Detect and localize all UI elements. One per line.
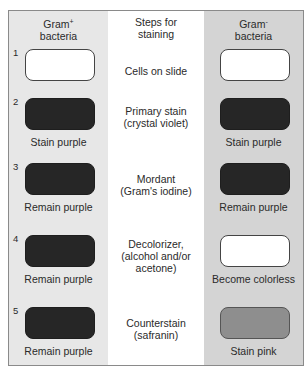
header-sup: +: [70, 18, 74, 25]
step-text: (safranin): [134, 329, 178, 341]
slide-cell-white: [25, 49, 95, 81]
gram-stain-diagram: Gram+ bacteria 1 2 Stain purple 3 Remain…: [8, 10, 304, 366]
header-text: bacteria: [40, 30, 77, 42]
slide-cell-purple: [220, 163, 290, 195]
result-label: Become colorless: [204, 273, 303, 285]
header-text: staining: [138, 28, 174, 40]
slide-cell-purple: [25, 307, 95, 339]
step-3-description: Mordant (Gram's iodine): [108, 173, 204, 197]
slide-cell-pink: [220, 307, 290, 339]
step-1-description: Cells on slide: [108, 65, 204, 77]
step-5-description: Counterstain (safranin): [108, 317, 204, 341]
result-label: Remain purple: [9, 345, 108, 357]
steps-header: Steps for staining: [108, 16, 204, 40]
gram-negative-header: Gram- bacteria: [204, 16, 303, 42]
slide-cell-white: [220, 49, 290, 81]
gram-positive-header: Gram+ bacteria: [9, 16, 108, 42]
gram-positive-column: Gram+ bacteria 1 2 Stain purple 3 Remain…: [9, 11, 108, 365]
step-text: (crystal violet): [124, 117, 189, 129]
slide-cell-purple: [25, 163, 95, 195]
header-text: Gram: [43, 18, 69, 30]
header-text: Steps for: [135, 16, 177, 28]
header-text: bacteria: [235, 30, 272, 42]
result-label: Remain purple: [9, 201, 108, 213]
step-4-description: Decolorizer, (alcohol and/or acetone): [108, 238, 204, 274]
step-number: 5: [13, 305, 18, 316]
result-label: Stain purple: [9, 136, 108, 148]
header-text: Gram: [239, 18, 265, 30]
step-text: Counterstain: [126, 317, 186, 329]
result-label: Remain purple: [9, 273, 108, 285]
slide-cell-purple: [25, 98, 95, 130]
slide-cell-purple: [220, 98, 290, 130]
step-text: Cells on slide: [125, 65, 187, 77]
slide-cell-purple: [25, 235, 95, 267]
result-label: Remain purple: [204, 201, 303, 213]
step-text: Mordant: [137, 173, 176, 185]
step-text: Decolorizer,: [128, 238, 183, 250]
steps-column: Steps for staining Cells on slide Primar…: [108, 11, 204, 365]
result-label: Stain pink: [204, 345, 303, 357]
step-2-description: Primary stain (crystal violet): [108, 105, 204, 129]
step-text: (alcohol and/or: [121, 250, 190, 262]
header-sup: -: [265, 18, 267, 25]
result-label: Stain purple: [204, 136, 303, 148]
step-number: 4: [13, 233, 18, 244]
step-number: 1: [13, 47, 18, 58]
step-text: (Gram's iodine): [120, 185, 191, 197]
step-text: acetone): [136, 262, 177, 274]
gram-negative-column: Gram- bacteria Stain purple Remain purpl…: [204, 11, 303, 365]
slide-cell-colorless: [220, 235, 290, 267]
step-text: Primary stain: [125, 105, 186, 117]
step-number: 2: [13, 96, 18, 107]
step-number: 3: [13, 161, 18, 172]
